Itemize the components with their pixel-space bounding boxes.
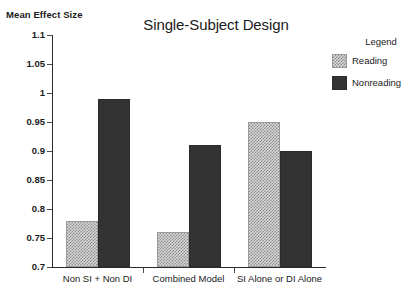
- bar-reading-3: [248, 122, 280, 267]
- bar-nonreading-1: [98, 99, 130, 267]
- legend-label-reading: Reading: [352, 55, 387, 66]
- x-axis-category-label: Non SI + Non DI: [52, 273, 143, 284]
- legend-label-nonreading: Nonreading: [352, 77, 401, 88]
- x-axis-line: [52, 267, 326, 268]
- y-axis-tick-label: 1.05: [0, 58, 45, 69]
- legend-swatch-nonreading: [332, 76, 347, 90]
- plot-area: [52, 35, 325, 267]
- legend-title: Legend: [345, 36, 417, 47]
- y-axis-tick-label: 1: [0, 87, 45, 98]
- y-axis-tick-label: 0.75: [0, 232, 45, 243]
- bar-nonreading-2: [189, 145, 221, 267]
- y-axis-tick-label: 0.8: [0, 203, 45, 214]
- chart-figure: Mean Effect Size Single-Subject Design 1…: [0, 0, 418, 292]
- legend-swatch-reading: [332, 54, 347, 68]
- y-axis-tick-label: 0.7: [0, 261, 45, 272]
- y-axis-tick: [47, 267, 52, 268]
- bar-reading-2: [157, 232, 189, 267]
- x-axis-category-label: Combined Model: [143, 273, 234, 284]
- bar-nonreading-3: [280, 151, 312, 267]
- y-axis-tick-label: 0.95: [0, 116, 45, 127]
- x-axis-category-label: SI Alone or DI Alone: [234, 273, 325, 284]
- chart-title: Single-Subject Design: [116, 16, 316, 33]
- y-axis-tick-label: 1.1: [0, 29, 45, 40]
- y-axis-tick-label: 0.9: [0, 145, 45, 156]
- y-axis-title: Mean Effect Size: [6, 9, 83, 20]
- bar-reading-1: [66, 221, 98, 267]
- y-axis-tick-label: 0.85: [0, 174, 45, 185]
